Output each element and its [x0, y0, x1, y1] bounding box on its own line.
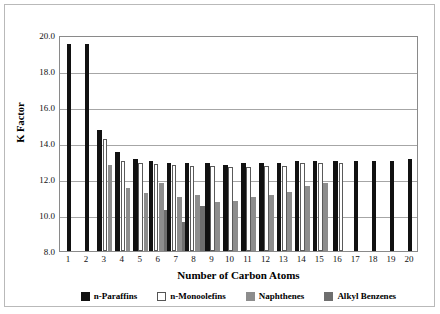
- bar-naphthenes-c9: [215, 202, 220, 251]
- x-axis-tick-label: 9: [203, 254, 221, 264]
- bar-naphthenes-c12: [269, 195, 274, 251]
- x-axis-tick-label: 2: [77, 254, 95, 264]
- legend-item: n-Monoolefins: [157, 292, 226, 301]
- bar-n-paraffins-c9: [205, 163, 210, 251]
- bar-n-paraffins-c1: [67, 44, 72, 251]
- bar-n-monoolefins-c16: [339, 163, 344, 251]
- legend-swatch-icon: [157, 292, 166, 301]
- bar-n-paraffins-c2: [85, 44, 90, 251]
- x-axis-tick-label: 18: [364, 254, 382, 264]
- gridline: [60, 73, 417, 74]
- bar-n-monoolefins-c4: [121, 161, 126, 251]
- bar-naphthenes-c7: [177, 197, 182, 251]
- gridline: [60, 145, 417, 146]
- bar-naphthenes-c5: [144, 193, 149, 251]
- bar-n-paraffins-c14: [295, 161, 300, 251]
- y-axis-tick-label: 12.0: [9, 176, 55, 185]
- x-axis-tick-label: 20: [400, 254, 418, 264]
- x-axis-tick-label: 19: [382, 254, 400, 264]
- bar-n-paraffins-c13: [277, 163, 282, 251]
- bar-n-monoolefins-c5: [138, 163, 143, 251]
- bar-naphthenes-c10: [233, 201, 238, 251]
- bar-n-monoolefins-c8: [190, 166, 195, 252]
- bar-n-monoolefins-c12: [264, 166, 269, 251]
- x-axis-tick-labels: 1234567891011121314151617181920: [59, 254, 418, 268]
- bar-n-monoolefins-c11: [246, 167, 251, 251]
- bar-n-paraffins-c20: [408, 159, 413, 251]
- x-axis-tick-label: 4: [113, 254, 131, 264]
- x-axis-tick-label: 1: [59, 254, 77, 264]
- bar-n-paraffins-c5: [133, 159, 138, 251]
- chart-legend: n-Paraffinsn-MonoolefinsNaphthenesAlkyl …: [59, 288, 418, 304]
- chart-frame: K Factor 20.018.016.014.012.010.08.0 123…: [4, 4, 435, 307]
- bar-naphthenes-c8: [195, 195, 200, 251]
- legend-label: n-Paraffins: [94, 292, 138, 301]
- legend-swatch-icon: [81, 292, 90, 301]
- bar-n-monoolefins-c6: [154, 164, 159, 251]
- gridline: [60, 181, 417, 182]
- bar-n-paraffins-c10: [223, 165, 228, 251]
- legend-item: n-Paraffins: [81, 292, 138, 301]
- x-axis-tick-label: 15: [310, 254, 328, 264]
- y-axis-tick-label: 14.0: [9, 140, 55, 149]
- bar-n-paraffins-c11: [241, 163, 246, 251]
- bar-naphthenes-c13: [287, 192, 292, 251]
- bar-n-monoolefins-c10: [228, 167, 233, 251]
- bar-n-paraffins-c17: [354, 161, 359, 251]
- x-axis-tick-label: 5: [131, 254, 149, 264]
- bar-n-paraffins-c12: [259, 163, 264, 251]
- x-axis-tick-label: 8: [185, 254, 203, 264]
- y-axis-tick-label: 18.0: [9, 68, 55, 77]
- x-axis-title: Number of Carbon Atoms: [59, 269, 418, 281]
- bar-naphthenes-c14: [305, 186, 310, 251]
- x-axis-tick-label: 16: [328, 254, 346, 264]
- bar-n-paraffins-c3: [97, 130, 102, 251]
- x-axis-tick-label: 13: [274, 254, 292, 264]
- bar-n-paraffins-c4: [115, 152, 120, 251]
- bar-n-paraffins-c15: [313, 161, 318, 251]
- plot-area: [59, 36, 418, 252]
- x-axis-tick-label: 11: [239, 254, 257, 264]
- bar-n-paraffins-c7: [167, 163, 172, 251]
- bar-n-paraffins-c8: [185, 163, 190, 251]
- x-axis-tick-label: 10: [221, 254, 239, 264]
- x-axis-tick-label: 6: [149, 254, 167, 264]
- y-axis-tick-labels: 20.018.016.014.012.010.08.0: [5, 36, 55, 252]
- bar-naphthenes-c4: [126, 188, 131, 251]
- gridline: [60, 217, 417, 218]
- y-axis-tick-label: 16.0: [9, 104, 55, 113]
- y-axis-tick-label: 8.0: [9, 248, 55, 257]
- bar-naphthenes-c11: [251, 197, 256, 251]
- bar-n-monoolefins-c15: [318, 163, 323, 251]
- legend-item: Alkyl Benzenes: [324, 292, 396, 301]
- x-axis-tick-label: 7: [167, 254, 185, 264]
- x-axis-tick-label: 14: [292, 254, 310, 264]
- bar-n-monoolefins-c13: [282, 166, 287, 252]
- bar-naphthenes-c3: [108, 165, 113, 251]
- y-axis-tick-label: 20.0: [9, 32, 55, 41]
- bar-n-paraffins-c16: [333, 161, 338, 251]
- bar-n-paraffins-c6: [149, 161, 154, 251]
- legend-swatch-icon: [324, 292, 333, 301]
- bar-naphthenes-c6: [159, 183, 164, 251]
- bar-n-paraffins-c19: [390, 161, 395, 251]
- legend-swatch-icon: [246, 292, 255, 301]
- y-axis-tick-label: 10.0: [9, 212, 55, 221]
- x-axis-tick-label: 3: [95, 254, 113, 264]
- chart-screenshot: K Factor 20.018.016.014.012.010.08.0 123…: [0, 0, 440, 314]
- x-axis-tick-label: 17: [346, 254, 364, 264]
- bar-n-monoolefins-c9: [210, 166, 215, 251]
- x-axis-tick-label: 12: [256, 254, 274, 264]
- legend-item: Naphthenes: [246, 292, 305, 301]
- bar-n-monoolefins-c3: [103, 139, 108, 252]
- legend-label: Naphthenes: [259, 292, 305, 301]
- legend-label: Alkyl Benzenes: [337, 292, 396, 301]
- bar-n-monoolefins-c7: [172, 165, 177, 251]
- bar-n-monoolefins-c14: [300, 163, 305, 251]
- bar-alkyl-benzenes-c8: [200, 206, 205, 251]
- gridline: [60, 109, 417, 110]
- legend-label: n-Monoolefins: [170, 292, 226, 301]
- bar-naphthenes-c15: [323, 183, 328, 251]
- bar-n-paraffins-c18: [372, 161, 377, 251]
